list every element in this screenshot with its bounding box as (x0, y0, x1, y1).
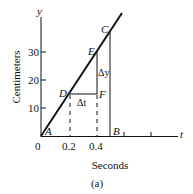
t-axis-symbol: t (180, 128, 184, 140)
delta-t-label: Δt (77, 97, 86, 108)
t-tick-label-0.4: 0.4 (89, 140, 103, 152)
y-axis-label: Centimeters (10, 50, 22, 103)
y-axis-symbol: y (36, 5, 42, 17)
point-label-e: E (87, 45, 95, 57)
y-tick-label-30: 30 (28, 46, 40, 58)
y-tick-label-20: 20 (28, 74, 40, 86)
delta-y-label: Δy (98, 67, 109, 78)
point-label-a: A (44, 125, 52, 137)
point-label-f: F (98, 88, 106, 100)
position-time-diagram: y t 30 20 10 0 0.2 0.4 Centimeters Secon… (0, 0, 193, 194)
point-label-b: B (113, 125, 120, 137)
t-tick-label-0: 0 (35, 140, 41, 152)
point-label-c: C (101, 23, 109, 35)
point-label-d: D (58, 87, 67, 99)
x-axis-label: Seconds (92, 159, 129, 171)
y-tick-label-10: 10 (28, 102, 40, 114)
figure-caption: (a) (91, 177, 104, 190)
t-tick-label-0.2: 0.2 (62, 140, 76, 152)
